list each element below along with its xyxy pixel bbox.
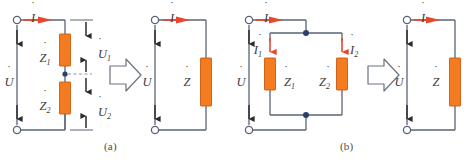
terminal-top bbox=[403, 16, 410, 23]
caption-b: (b) bbox=[340, 140, 353, 152]
terminal-top bbox=[13, 16, 20, 23]
current-arrow-I bbox=[163, 17, 190, 24]
wires bbox=[17, 20, 65, 130]
current-arrow-I bbox=[256, 17, 283, 24]
caption-a: (a) bbox=[104, 140, 117, 152]
terminal-bottom bbox=[245, 126, 252, 133]
label-current-I: ˙I bbox=[263, 0, 269, 25]
terminal-top bbox=[245, 16, 252, 23]
junction-node-top bbox=[303, 30, 309, 36]
label-impedance-Z2: ˙Z2 bbox=[40, 87, 51, 115]
impedance-block-z bbox=[201, 58, 212, 106]
impedance-block-z2 bbox=[60, 82, 71, 114]
label-impedance-Z: ˙Z bbox=[184, 63, 192, 89]
terminal-top bbox=[151, 16, 158, 23]
label-source-U: ˙U bbox=[142, 63, 152, 89]
current-arrow-I bbox=[414, 17, 440, 24]
label-branch-current-I2: ˙I2 bbox=[349, 31, 358, 59]
current-arrow-I bbox=[24, 17, 52, 24]
panel-a: ˙I ˙U ˙Z1 ˙Z2 ˙U1 ˙U2 bbox=[4, 0, 211, 134]
terminal-bottom bbox=[403, 126, 410, 133]
label-current-I: ˙I bbox=[169, 0, 175, 25]
panel-b-parallel-circuit: ˙I ˙U ˙I1 ˙I2 ˙Z1 ˙Z2 bbox=[236, 0, 358, 134]
label-current-I: ˙I bbox=[420, 0, 426, 25]
terminal-bottom bbox=[13, 126, 20, 133]
wires bbox=[407, 20, 455, 130]
label-source-U: ˙U bbox=[236, 63, 246, 89]
junction-node-bottom bbox=[303, 112, 309, 118]
label-impedance-Z: ˙Z bbox=[433, 63, 441, 89]
label-source-U: ˙U bbox=[394, 63, 404, 89]
impedance-block-z2 bbox=[337, 58, 348, 90]
equivalence-arrow-a bbox=[110, 59, 141, 91]
impedance-block-z bbox=[450, 58, 461, 106]
midpoint-node bbox=[62, 71, 67, 76]
impedance-block-z1 bbox=[60, 34, 71, 66]
label-impedance-Z2: ˙Z2 bbox=[319, 63, 330, 91]
label-impedance-Z1: ˙Z1 bbox=[284, 63, 295, 91]
label-impedance-Z1: ˙Z1 bbox=[40, 39, 51, 67]
panel-b-equivalent-circuit: ˙I ˙U ˙Z bbox=[394, 0, 460, 134]
impedance-block-z1 bbox=[265, 58, 276, 90]
panel-b: ˙I ˙U ˙I1 ˙I2 ˙Z1 ˙Z2 bbox=[236, 0, 460, 134]
wires bbox=[155, 20, 206, 130]
panel-a-equivalent-circuit: ˙I ˙U ˙Z bbox=[142, 0, 211, 134]
panel-a-series-circuit: ˙I ˙U ˙Z1 ˙Z2 ˙U1 ˙U2 bbox=[4, 0, 111, 134]
label-voltage-U2: ˙U2 bbox=[98, 93, 111, 121]
voltage-tick-marks bbox=[70, 20, 93, 130]
label-source-U: ˙U bbox=[4, 63, 14, 89]
label-current-I: ˙I bbox=[30, 0, 36, 25]
terminal-bottom bbox=[151, 126, 158, 133]
circuit-svg: ˙I ˙U ˙Z1 ˙Z2 ˙U1 ˙U2 bbox=[0, 0, 472, 164]
circuit-figure: ˙I ˙U ˙Z1 ˙Z2 ˙U1 ˙U2 bbox=[0, 0, 472, 164]
label-voltage-U1: ˙U1 bbox=[98, 35, 111, 63]
label-branch-current-I1: ˙I1 bbox=[253, 31, 262, 59]
